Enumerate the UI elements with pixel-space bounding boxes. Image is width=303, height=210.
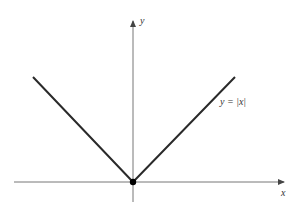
abs-value-curve (33, 77, 235, 182)
curve-label: y = |x| (219, 96, 246, 107)
abs-value-graph: y x y = |x| (0, 0, 303, 210)
x-axis-label: x (280, 187, 286, 198)
y-axis-label: y (139, 15, 145, 26)
origin-dot (130, 179, 136, 185)
graph-svg: y x y = |x| (0, 0, 303, 210)
